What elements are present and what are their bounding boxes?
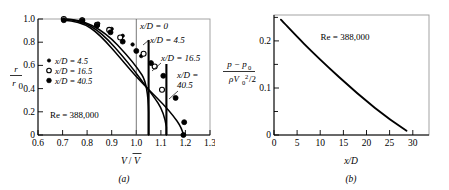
panel-b-ylabel-denominator-tail: /2 — [249, 74, 256, 84]
legend-label-xd-40p5: x/D = 40.5 — [54, 76, 92, 86]
panel-b-ylabel-numerator-sub: 0 — [248, 64, 251, 71]
panel-a-ytick-4: 0.8 — [23, 37, 35, 47]
legend-marker-large-filled-dot — [47, 78, 52, 83]
panel-a-annotation-xd-4p5: x/D = 4.5 — [149, 35, 185, 45]
panel-a-ytick-0: 0 — [30, 130, 35, 140]
panel-a-ytick-1: 0.2 — [23, 107, 35, 117]
panel-a-y-axis-label: r r 0 — [10, 64, 24, 91]
panel-a-ylabel-denominator-sub: 0 — [19, 81, 24, 91]
panel-a-xtick-6: 1.2 — [179, 138, 191, 148]
panel-a-legend: x/D = 4.5 x/D = 16.5 x/D = 40.5 — [47, 56, 92, 86]
panel-a-y-tick-labels: 0 0.2 0.4 0.6 0.8 1.0 — [23, 14, 35, 140]
panel-a-xlabel-slash: / — [129, 156, 132, 166]
panel-a-xtick-3: 0.9 — [106, 138, 118, 148]
panel-a-x-tick-labels: 0.6 0.7 0.8 0.9 1.0 1.1 1.2 1.3 — [32, 138, 215, 148]
panel-b-xtick-2: 10 — [315, 138, 325, 148]
legend-label-xd-4p5: x/D = 4.5 — [54, 56, 88, 66]
panel-b-ytick-2: 0.2 — [259, 36, 271, 46]
panel-b-x-tick-labels: 0 5 10 15 20 25 30 — [272, 138, 418, 148]
panel-b-y-axis-label: p − p 0 ρV 0 2 /2 — [223, 59, 256, 86]
panel-a-xtick-5: 1.1 — [155, 138, 167, 148]
panel-b-xtick-6: 30 — [408, 138, 418, 148]
panel-b-ylabel-numerator: p − p — [226, 59, 247, 69]
panel-a-annotation-xd-16p5: x/D = 16.5 — [160, 53, 201, 63]
panel-b-x-axis-label: x/D — [343, 156, 358, 166]
panel-a-velocity-profiles: 0.6 0.7 0.8 0.9 1.0 1.1 1.2 1.3 0 0.2 0.… — [0, 0, 215, 190]
panel-b-y-tick-labels: 0 0.1 0.2 — [259, 36, 271, 140]
panel-a-reynolds-annotation: Re = 388,000 — [50, 110, 99, 120]
legend-label-xd-16p5: x/D = 16.5 — [54, 66, 92, 76]
figure-root: 0.6 0.7 0.8 0.9 1.0 1.1 1.2 1.3 0 0.2 0.… — [0, 0, 449, 190]
panel-b-caption: (b) — [345, 174, 356, 185]
panel-b-ylabel-denominator: ρV — [228, 74, 240, 84]
panel-a-xtick-7: 1.3 — [204, 138, 215, 148]
legend-marker-small-filled-dot — [47, 59, 50, 62]
panel-b-ytick-0: 0 — [266, 130, 271, 140]
panel-a-y-ticks — [38, 19, 43, 135]
panel-b-xtick-5: 25 — [385, 138, 395, 148]
panel-a-ylabel-numerator: r — [14, 64, 18, 74]
panel-b-y-ticks — [274, 17, 279, 135]
panel-b-xtick-1: 5 — [295, 138, 300, 148]
panel-a-caption: (a) — [118, 174, 129, 185]
panel-b-ylabel-denominator-sup: 2 — [245, 73, 248, 80]
panel-b-ylabel-denominator-sub: 0 — [242, 79, 245, 86]
panel-a-xtick-2: 0.8 — [81, 138, 93, 148]
panel-b-ytick-1: 0.1 — [259, 83, 271, 93]
panel-b-xtick-4: 20 — [362, 138, 372, 148]
panel-a-annotation-xd-40p5-line1: x/D = — [176, 70, 198, 80]
panel-b-xtick-3: 15 — [339, 138, 349, 148]
panel-a-ytick-5: 1.0 — [23, 14, 35, 24]
panel-a-xlabel-denominator: V — [134, 156, 141, 166]
panel-a-xtick-1: 0.7 — [57, 138, 69, 148]
panel-a-annotation-xd-40p5-line2: 40.5 — [177, 80, 193, 90]
panel-a-ytick-2: 0.4 — [23, 84, 35, 94]
legend-marker-open-circle — [47, 68, 52, 73]
panel-a-x-axis-label: V / V — [121, 154, 141, 167]
panel-b-x-ticks — [274, 130, 413, 135]
panel-a-xlabel-numerator: V — [121, 156, 128, 166]
panel-a-xtick-4: 1.0 — [130, 138, 142, 148]
panel-a-ytick-3: 0.6 — [23, 60, 35, 70]
panel-a-annotation-xd-0: x/D = 0 — [139, 21, 169, 31]
panel-b-reynolds-annotation: Re = 388,000 — [321, 32, 370, 42]
panel-b-xtick-0: 0 — [272, 138, 277, 148]
panel-b-pressure-drop: 0 5 10 15 20 25 30 0 0.1 0.2 p − p 0 — [215, 0, 449, 190]
panel-a-ylabel-denominator: r — [12, 78, 16, 88]
